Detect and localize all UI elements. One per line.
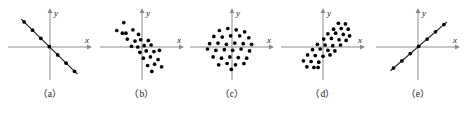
data-point <box>56 53 60 57</box>
data-point <box>239 47 243 51</box>
data-point <box>328 53 332 57</box>
data-point <box>337 38 341 42</box>
data-point <box>348 34 352 38</box>
scatter-plot-figure: yx（a）yx（b）yx（c）yx（d）yx（e） <box>0 0 466 113</box>
data-point <box>156 58 160 62</box>
data-point <box>130 44 134 48</box>
data-point <box>131 28 135 32</box>
x-axis-label: x <box>452 35 457 45</box>
data-point <box>144 49 148 53</box>
data-point <box>149 43 153 47</box>
data-point <box>316 43 320 47</box>
data-point <box>216 41 220 45</box>
data-point <box>228 55 232 59</box>
panel-caption: （a） <box>4 88 96 100</box>
data-point <box>217 63 221 67</box>
data-point <box>226 27 230 31</box>
data-point <box>326 32 330 36</box>
data-point <box>331 44 335 48</box>
data-point <box>339 43 343 47</box>
scatter-plot-1: yx <box>4 0 96 86</box>
data-point <box>73 70 77 74</box>
data-point <box>125 37 129 41</box>
data-point <box>225 62 229 66</box>
data-point <box>316 66 320 70</box>
data-point <box>158 48 162 52</box>
data-point <box>330 37 334 41</box>
x-axis-label: x <box>357 35 362 45</box>
data-point <box>142 44 146 48</box>
data-point <box>250 43 254 47</box>
panel-4: yx（d） <box>277 0 369 113</box>
scatter-plot-5: yx <box>372 0 464 86</box>
data-point <box>434 30 438 34</box>
data-point <box>220 35 224 39</box>
data-point <box>317 60 321 64</box>
data-point <box>332 27 336 31</box>
data-point <box>309 60 313 64</box>
data-point <box>22 20 26 24</box>
data-point <box>311 48 315 52</box>
y-axis-label: y <box>53 8 58 18</box>
data-point <box>64 61 68 65</box>
data-point <box>150 70 154 74</box>
data-point <box>312 66 316 70</box>
data-point <box>318 47 322 51</box>
data-point <box>241 42 245 46</box>
data-point <box>313 54 317 58</box>
data-point <box>142 56 146 60</box>
data-point <box>211 55 215 59</box>
data-point <box>231 48 235 52</box>
data-point <box>233 41 237 45</box>
data-point <box>248 49 252 53</box>
data-point <box>152 50 156 54</box>
data-point <box>31 28 35 32</box>
data-point <box>392 66 396 70</box>
data-point <box>229 34 233 38</box>
data-point <box>222 48 226 52</box>
panel-5: yx（e） <box>372 0 464 113</box>
x-axis-label: x <box>266 35 271 45</box>
data-point <box>122 21 126 25</box>
data-point <box>334 31 338 35</box>
data-point <box>442 23 446 27</box>
data-point <box>425 37 429 41</box>
data-point <box>153 62 157 66</box>
scatter-plot-4: yx <box>277 0 369 86</box>
data-point <box>333 49 337 53</box>
y-axis-label: y <box>235 8 240 18</box>
data-point <box>146 64 150 68</box>
data-point <box>236 56 240 60</box>
y-axis-label: y <box>421 8 426 18</box>
data-point <box>212 35 216 39</box>
data-point <box>138 50 142 54</box>
panel-caption: （b） <box>96 88 188 100</box>
data-point <box>208 42 212 46</box>
panel-3: yx（c） <box>186 0 278 113</box>
data-point <box>344 22 348 26</box>
data-point <box>322 37 326 41</box>
data-point <box>133 39 137 43</box>
data-point <box>400 59 404 63</box>
data-point <box>214 48 218 52</box>
data-point <box>234 63 238 67</box>
data-point <box>245 56 249 60</box>
data-point <box>243 30 247 34</box>
data-point <box>218 29 222 33</box>
data-point <box>321 54 325 58</box>
scatter-plot-2: yx <box>96 0 188 86</box>
data-point <box>337 21 341 25</box>
y-axis-label: y <box>326 8 331 18</box>
data-point <box>408 52 412 56</box>
data-point <box>149 55 153 59</box>
scatter-plot-3: yx <box>186 0 278 86</box>
data-point <box>137 33 141 37</box>
data-point <box>39 37 43 41</box>
data-point <box>339 27 343 31</box>
data-point <box>341 33 345 37</box>
data-point <box>229 68 233 72</box>
data-point <box>417 44 421 48</box>
data-point <box>346 27 350 31</box>
data-point <box>115 29 119 33</box>
panel-1: yx（a） <box>4 0 96 113</box>
